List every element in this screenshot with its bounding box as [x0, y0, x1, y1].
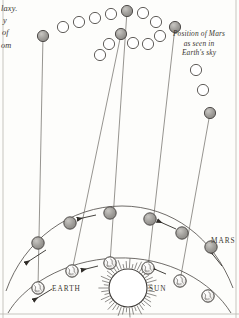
left-caption-line-3: of [2, 28, 9, 38]
sight-line [148, 27, 175, 268]
sun-ray [144, 301, 151, 307]
mars-body [32, 237, 44, 249]
sun-ray [147, 296, 150, 298]
mars-label: Mars [211, 236, 236, 245]
sun-ray [135, 263, 137, 269]
mars-sky-position [127, 37, 138, 48]
earth-body [32, 282, 44, 294]
earth-label: Earth [52, 284, 81, 293]
mars-sky-position [190, 64, 201, 75]
mars-sky-position-marked [37, 30, 48, 41]
sun-ray [135, 307, 136, 311]
mars-sky-position [142, 38, 153, 49]
mars-sky-position [89, 12, 100, 23]
mars-sky-position-marked [115, 28, 126, 39]
sun-ray [129, 308, 130, 317]
mars-sky-position [197, 84, 208, 95]
sun-disc [109, 269, 147, 307]
sight-line [72, 34, 121, 271]
sky-note-line-3: Earth's sky [163, 48, 235, 58]
sky-note: Position of Mars as seen in Earth's sky [163, 29, 235, 58]
mars-sky-position [137, 7, 148, 18]
sight-line [38, 36, 43, 288]
earth-body [174, 275, 186, 287]
sun-ray [140, 305, 144, 310]
sun-ray [137, 306, 141, 314]
retrograde-motion-figure: laxy. y of om Position of Mars as seen i… [0, 0, 239, 318]
sun-ray [113, 305, 117, 310]
sun-ray [132, 265, 133, 269]
sun-ray [101, 276, 109, 280]
earth-body [202, 290, 214, 302]
mars-body [104, 207, 116, 219]
earth-body [104, 257, 116, 269]
sun-ray [145, 299, 150, 302]
mars-body [176, 227, 188, 239]
sun-ray [145, 276, 148, 278]
sun-ray [102, 281, 108, 283]
sky-note-line-2: as seen in [163, 39, 235, 49]
sun-ray [129, 259, 130, 268]
earth-body [66, 265, 78, 277]
mars-sky-position [57, 21, 68, 32]
sun-ray [114, 268, 116, 271]
mars-body [144, 213, 156, 225]
mars-sky-position-marked [204, 107, 215, 118]
sun-ray [102, 291, 108, 292]
sun-ray [123, 265, 124, 269]
sun-ray [147, 277, 153, 280]
earth-body [142, 262, 154, 274]
sun-ray [107, 276, 110, 278]
mars-body [64, 217, 76, 229]
sun-ray [109, 301, 112, 303]
sun-ray [117, 306, 119, 309]
sun-ray [123, 308, 124, 314]
left-caption-line-1: laxy. [1, 4, 17, 14]
sky-note-line-1: Position of Mars [163, 29, 235, 39]
mars-sky-position-marked [121, 5, 132, 16]
sun-ray [105, 299, 110, 302]
sun-ray [132, 308, 133, 314]
sun-ray [142, 303, 145, 306]
mars-sky-position [105, 8, 116, 19]
mars-sky-position [94, 49, 105, 60]
sun-ray [101, 296, 109, 300]
sun-ray [137, 262, 141, 270]
sun-label: Sun [149, 284, 167, 293]
sun-ray [118, 260, 121, 268]
left-caption-line-4: om [1, 41, 12, 51]
sun-ray [147, 280, 156, 282]
sun-ray [107, 271, 112, 275]
mars-sky-position [103, 38, 114, 49]
sun-ray [147, 293, 156, 295]
left-caption-line-2: y [3, 16, 7, 26]
sight-line [180, 113, 210, 281]
sun-ray [104, 285, 108, 286]
sun-ray [105, 293, 109, 294]
mars-sky-position [73, 16, 84, 27]
mars-sky-position [150, 16, 161, 27]
